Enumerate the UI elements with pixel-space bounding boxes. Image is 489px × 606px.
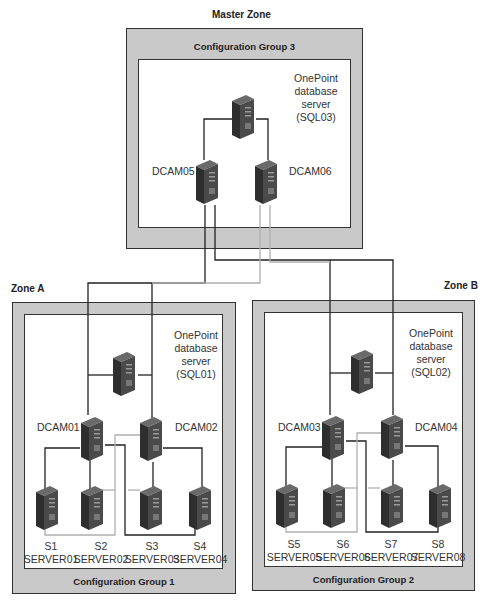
server-icon-dcam06 xyxy=(253,160,279,204)
server-icon-dcam02 xyxy=(138,417,164,461)
server-icon-dcam04 xyxy=(379,415,405,459)
server-icon-server07 xyxy=(379,484,405,528)
server-icon-sql03 xyxy=(230,95,256,139)
server-icon-dcam03 xyxy=(320,416,346,460)
server-icon-server02 xyxy=(79,486,105,530)
server-icon-sql02 xyxy=(349,350,375,394)
server-icon-server08 xyxy=(427,484,453,528)
server-icon-dcam05 xyxy=(194,160,220,204)
server-icon-server06 xyxy=(321,484,347,528)
server-icon-server04 xyxy=(187,486,213,530)
server-icon-dcam01 xyxy=(79,417,105,461)
server-icon-server01 xyxy=(34,486,60,530)
server-icon-sql01 xyxy=(111,352,137,396)
server-icon-server05 xyxy=(274,484,300,528)
connection-wires xyxy=(0,0,489,606)
server-icon-server03 xyxy=(138,486,164,530)
